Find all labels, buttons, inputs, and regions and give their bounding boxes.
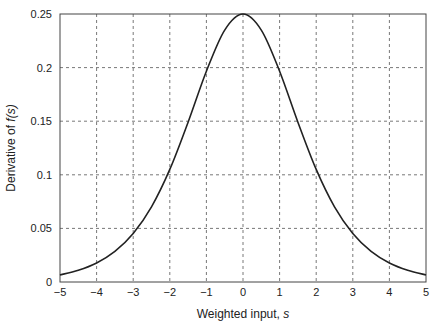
y-tick-label: 0.25 <box>31 8 52 20</box>
x-tick-label: −2 <box>164 286 177 298</box>
data-line <box>60 14 426 275</box>
x-axis-label: Weighted input, s <box>197 307 290 321</box>
y-tick-label: 0 <box>46 276 52 288</box>
x-tick-label: 2 <box>313 286 319 298</box>
y-axis-ticks: 00.050.10.150.20.25 <box>31 8 52 288</box>
y-tick-label: 0.1 <box>37 169 52 181</box>
x-tick-label: 3 <box>350 286 356 298</box>
x-tick-label: −1 <box>200 286 213 298</box>
x-tick-label: 1 <box>277 286 283 298</box>
x-tick-label: −5 <box>54 286 67 298</box>
x-tick-label: 0 <box>240 286 246 298</box>
x-tick-label: −4 <box>90 286 103 298</box>
chart: −5−4−3−2−1012345 00.050.10.150.20.25 Wei… <box>0 0 438 332</box>
x-axis-ticks: −5−4−3−2−1012345 <box>54 286 429 298</box>
y-tick-label: 0.2 <box>37 62 52 74</box>
x-tick-label: 4 <box>386 286 392 298</box>
y-tick-label: 0.05 <box>31 222 52 234</box>
grid-lines <box>60 14 426 282</box>
y-axis-label: Derivative of f(s) <box>4 104 18 191</box>
y-tick-label: 0.15 <box>31 115 52 127</box>
x-tick-label: −3 <box>127 286 140 298</box>
x-tick-label: 5 <box>423 286 429 298</box>
